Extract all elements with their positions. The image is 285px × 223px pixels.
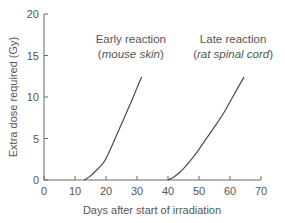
x-axis-title: Days after start of irradiation	[83, 204, 221, 216]
x-tick-label: 30	[131, 185, 143, 197]
x-tick-label: 20	[100, 185, 112, 197]
early-reaction-curve	[84, 77, 141, 180]
y-tick-label: 20	[27, 8, 39, 20]
x-tick-label: 0	[41, 185, 47, 197]
series-lines	[84, 77, 244, 180]
x-tick-label: 10	[69, 185, 81, 197]
y-tick-label: 10	[27, 91, 39, 103]
early-reaction-label: Early reaction	[96, 33, 166, 45]
y-tick-label: 15	[27, 50, 39, 62]
chart-canvas: 01020304050607005101520 Early reaction(m…	[0, 0, 285, 223]
x-tick-label: 50	[193, 185, 205, 197]
late-reaction-label: Late reaction	[200, 33, 267, 45]
annotations: Early reaction(mouse skin)Late reaction(…	[96, 33, 274, 60]
y-tick-label: 0	[33, 174, 39, 186]
x-tick-label: 60	[224, 185, 236, 197]
mouse-skin-label: (mouse skin)	[98, 48, 164, 60]
x-tick-label: 40	[162, 185, 174, 197]
y-tick-label: 5	[33, 133, 39, 145]
rat-spinal-cord-label: (rat spinal cord)	[193, 48, 273, 60]
y-axis-title: Extra dose required (Gy)	[7, 37, 19, 157]
late-reaction-curve	[168, 77, 244, 180]
dose-vs-days-chart: 01020304050607005101520 Early reaction(m…	[0, 0, 285, 223]
x-tick-label: 70	[255, 185, 267, 197]
